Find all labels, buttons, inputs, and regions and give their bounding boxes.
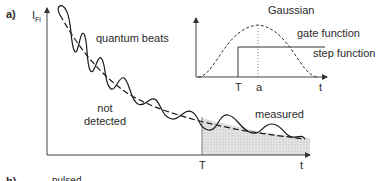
inset-title-gaussian: Gaussian: [268, 5, 314, 16]
quantum-beats-label: quantum beats: [96, 33, 169, 44]
not-detected-label: not detected: [82, 103, 128, 127]
not-detected-line1: not: [82, 103, 128, 114]
y-axis-label-subscript: Fl: [35, 16, 41, 23]
not-detected-line2: detected: [82, 116, 128, 127]
x-axis-tick-T: T: [199, 160, 206, 171]
measured-label: measured: [255, 109, 304, 120]
panel-b-label: b): [6, 176, 16, 181]
inset-tick-a: a: [256, 82, 262, 93]
step-function-curve: [238, 47, 325, 77]
x-axis-tick-t: t: [300, 160, 303, 171]
inset-tick-t: t: [319, 82, 322, 93]
panel-b-pulsed-label: pulsed: [52, 176, 81, 181]
inset-tick-T: T: [235, 82, 242, 93]
panel-a-label: a): [6, 9, 16, 20]
inset-gate-function-label: gate function: [297, 28, 360, 39]
y-axis-label: IFl: [32, 10, 41, 23]
inset-step-function-label: step function: [313, 48, 375, 59]
